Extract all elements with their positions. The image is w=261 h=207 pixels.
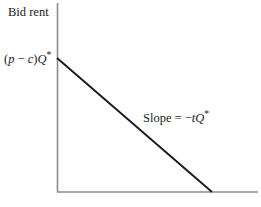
intercept-minus-sign: − <box>14 52 27 66</box>
slope-star-superscript: * <box>204 108 209 119</box>
y-axis-title: Bid rent <box>8 6 49 19</box>
plot-area <box>0 0 261 207</box>
y-intercept-label: (p − c)Q* <box>4 50 51 66</box>
bid-rent-figure: Bid rent (p − c)Q* Slope = −tQ* <box>0 0 261 207</box>
slope-annotation: Slope = −tQ* <box>143 109 209 125</box>
intercept-star-superscript: * <box>47 49 52 60</box>
slope-minus-sign: − <box>185 111 192 125</box>
slope-prefix-text: Slope = <box>143 111 185 125</box>
intercept-variable-q: Q <box>37 52 46 66</box>
slope-variable-q: Q <box>195 111 204 125</box>
